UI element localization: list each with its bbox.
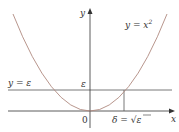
epsilon-line-label: y = ε [7, 78, 31, 88]
x-axis-label: x [171, 114, 176, 124]
epsilon-tick-label: ε [81, 79, 86, 89]
delta-label: δ = √ε [112, 115, 141, 125]
curve-label: y = x2 [124, 18, 152, 30]
origin-label: 0 [82, 115, 88, 125]
parabola-epsilon-delta-diagram: y x y = x2 y = ε ε 0 δ = √ε [0, 0, 179, 132]
x-axis-arrow-icon [169, 109, 175, 114]
y-axis-arrow-icon [88, 8, 93, 14]
y-axis-label: y [79, 8, 86, 18]
